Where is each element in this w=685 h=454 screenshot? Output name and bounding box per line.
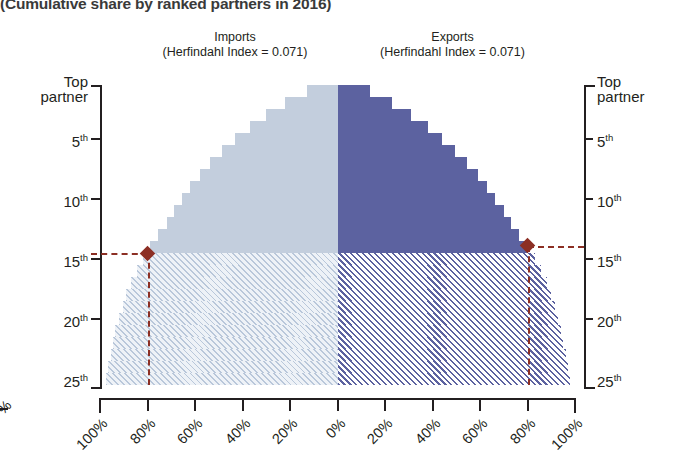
bar-exports-rank-16 bbox=[338, 265, 541, 277]
y-tick-l-15 bbox=[91, 258, 100, 260]
y-axis-label-r-25: 25th bbox=[597, 370, 622, 389]
bar-imports-rank-24 bbox=[108, 361, 337, 373]
y-tick-r-5 bbox=[584, 138, 593, 140]
y-axis-label-r-15: 15th bbox=[597, 250, 622, 269]
x-tick-1 bbox=[147, 398, 149, 411]
y-label-ordinal-suffix: th bbox=[614, 192, 622, 203]
bar-imports-rank-25 bbox=[106, 373, 338, 385]
reference-line-exports-horizontal bbox=[528, 246, 585, 248]
x-tick-8 bbox=[479, 398, 481, 411]
bar-exports-rank-9 bbox=[338, 181, 488, 193]
y-label-ordinal-suffix: th bbox=[614, 252, 622, 263]
x-axis-label-10: 100% bbox=[544, 416, 586, 454]
y-tick-l-5 bbox=[91, 138, 100, 140]
bar-exports-rank-20 bbox=[338, 313, 559, 325]
y-axis-label-r-5: 5th bbox=[597, 130, 613, 149]
bar-imports-rank-16 bbox=[137, 265, 338, 277]
imports-herfindahl: (Herfindahl Index = 0.071) bbox=[130, 45, 340, 60]
x-tick-3 bbox=[242, 398, 244, 411]
bar-exports-rank-4 bbox=[338, 121, 428, 133]
bar-exports-rank-15 bbox=[338, 253, 535, 265]
bar-imports-rank-6 bbox=[222, 145, 337, 157]
x-axis-label-6: 20% bbox=[354, 416, 396, 454]
x-axis-label-5: 0% bbox=[306, 416, 348, 454]
y-axis-label-r-1: Toppartner bbox=[597, 74, 645, 104]
bar-imports-rank-3 bbox=[266, 109, 337, 121]
page-bleed-label: % bbox=[0, 397, 14, 417]
x-axis-label-3: 40% bbox=[211, 416, 253, 454]
bar-exports-rank-5 bbox=[338, 133, 443, 145]
bar-imports-rank-9 bbox=[190, 181, 337, 193]
y-axis-left bbox=[91, 85, 102, 389]
y-label-ordinal-suffix: th bbox=[80, 312, 88, 323]
y-axis-label-l-5: 5th bbox=[72, 130, 88, 149]
bar-exports-rank-23 bbox=[338, 349, 566, 361]
bar-imports-rank-12 bbox=[167, 217, 338, 229]
bar-exports-rank-12 bbox=[338, 217, 511, 229]
y-axis-label-r-10: 10th bbox=[597, 190, 622, 209]
x-tick-4 bbox=[289, 398, 291, 411]
bar-imports-rank-23 bbox=[111, 349, 338, 361]
x-axis-label-1: 80% bbox=[116, 416, 158, 454]
bar-exports-rank-3 bbox=[338, 109, 412, 121]
bar-imports-rank-11 bbox=[174, 205, 338, 217]
x-tick-6 bbox=[384, 398, 386, 411]
bar-exports-rank-6 bbox=[338, 145, 456, 157]
y-axis-label-l-20: 20th bbox=[63, 310, 88, 329]
y-label-ordinal-suffix: th bbox=[80, 192, 88, 203]
x-axis-label-8: 60% bbox=[449, 416, 491, 454]
bar-exports-rank-13 bbox=[338, 229, 520, 241]
bar-imports-rank-14 bbox=[150, 241, 338, 253]
y-axis-right bbox=[584, 85, 595, 389]
bar-imports-rank-5 bbox=[235, 133, 337, 145]
y-tick-l-10 bbox=[91, 198, 100, 200]
exports-title: Exports bbox=[345, 30, 560, 45]
x-tick-2 bbox=[194, 398, 196, 411]
bar-imports-rank-8 bbox=[200, 169, 338, 181]
y-label-ordinal-suffix: th bbox=[80, 372, 88, 383]
bar-imports-rank-13 bbox=[158, 229, 337, 241]
y-label-ordinal-suffix: th bbox=[605, 132, 613, 143]
exports-herfindahl: (Herfindahl Index = 0.071) bbox=[345, 45, 560, 60]
chart-root: (Cumulative share by ranked partners in … bbox=[0, 0, 685, 454]
exports-panel-heading: Exports (Herfindahl Index = 0.071) bbox=[345, 30, 560, 59]
bar-exports-rank-11 bbox=[338, 205, 504, 217]
y-label-line2: partner bbox=[597, 88, 645, 105]
x-axis-label-9: 80% bbox=[496, 416, 538, 454]
x-axis-label-4: 20% bbox=[259, 416, 301, 454]
y-tick-r-20 bbox=[584, 318, 593, 320]
y-axis-label-l-25: 25th bbox=[63, 370, 88, 389]
y-label-ordinal-suffix: th bbox=[614, 372, 622, 383]
bar-imports-rank-2 bbox=[285, 97, 337, 109]
bar-exports-rank-10 bbox=[338, 193, 496, 205]
bar-imports-rank-10 bbox=[182, 193, 338, 205]
y-axis-label-l-1: Toppartner bbox=[40, 74, 88, 104]
x-axis-label-7: 40% bbox=[401, 416, 443, 454]
x-axis-label-0: 100% bbox=[69, 416, 111, 454]
x-tick-7 bbox=[432, 398, 434, 411]
bar-imports-rank-7 bbox=[210, 157, 337, 169]
bar-exports-rank-1 bbox=[338, 85, 370, 97]
reference-line-exports-vertical bbox=[528, 246, 530, 385]
bar-imports-rank-4 bbox=[250, 121, 338, 133]
bar-imports-rank-15 bbox=[143, 253, 338, 265]
y-label-ordinal-suffix: th bbox=[80, 132, 88, 143]
bar-exports-rank-18 bbox=[338, 289, 552, 301]
bar-exports-rank-14 bbox=[338, 241, 528, 253]
x-tick-10 bbox=[574, 398, 576, 413]
x-tick-0 bbox=[99, 398, 101, 413]
bar-exports-rank-2 bbox=[338, 97, 393, 109]
bar-imports-rank-19 bbox=[123, 301, 338, 313]
bar-exports-rank-19 bbox=[338, 301, 555, 313]
y-axis-label-r-20: 20th bbox=[597, 310, 622, 329]
y-label-ordinal-suffix: th bbox=[614, 312, 622, 323]
bar-exports-rank-17 bbox=[338, 277, 547, 289]
bar-imports-rank-17 bbox=[131, 277, 338, 289]
bar-imports-rank-20 bbox=[119, 313, 338, 325]
y-tick-r-10 bbox=[584, 198, 593, 200]
reference-line-imports-vertical bbox=[148, 253, 150, 385]
chart-supertitle: (Cumulative share by ranked partners in … bbox=[0, 0, 470, 13]
bar-imports-rank-1 bbox=[307, 85, 338, 97]
bar-exports-rank-24 bbox=[338, 361, 568, 373]
plot-area bbox=[100, 85, 575, 385]
